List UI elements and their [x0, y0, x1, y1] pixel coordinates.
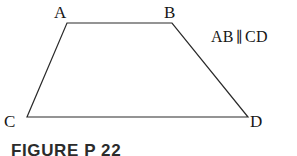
vertex-label-d: D: [250, 113, 262, 130]
trapezoid-shape: [0, 0, 297, 156]
vertex-label-c: C: [4, 113, 15, 130]
parallel-annotation: AB∥CD: [211, 29, 268, 45]
geometry-figure: A B C D AB∥CD FIGURE P 22: [0, 0, 297, 156]
parallel-symbol-icon: ∥: [234, 29, 245, 45]
figure-caption: FIGURE P 22: [11, 142, 121, 156]
parallel-segment-ab: AB: [211, 28, 234, 45]
parallel-segment-cd: CD: [245, 28, 268, 45]
vertex-label-a: A: [54, 4, 66, 21]
vertex-label-b: B: [164, 4, 175, 21]
